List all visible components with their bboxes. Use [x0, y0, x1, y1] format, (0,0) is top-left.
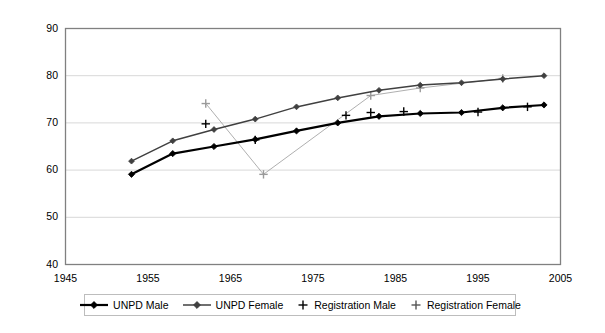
y-axis-tick: 50 [28, 210, 58, 222]
series-unpd-male [128, 102, 547, 178]
series-registration-female [202, 74, 507, 178]
x-axis-tick: 1995 [458, 272, 498, 284]
x-axis-tick: 1945 [46, 272, 86, 284]
legend-item: UNPD Female [182, 299, 284, 311]
x-axis-tick: 1955 [128, 272, 168, 284]
legend-item-label: UNPD Female [216, 299, 284, 311]
legend-item: UNPD Male [79, 299, 168, 311]
legend-marker-diamond-line-gray-icon [182, 299, 212, 311]
y-axis-tick: 80 [28, 69, 58, 81]
legend-item-label: Registration Female [427, 299, 521, 311]
legend-item-label: UNPD Male [113, 299, 168, 311]
y-axis-tick: 70 [28, 116, 58, 128]
y-axis-tick: 60 [28, 163, 58, 175]
x-axis-tick: 2005 [541, 272, 581, 284]
legend-item: Registration Male [296, 299, 396, 311]
x-axis-tick: 1975 [293, 272, 333, 284]
x-axis-tick: 1985 [376, 272, 416, 284]
x-axis-tick: 1965 [211, 272, 251, 284]
legend-marker-diamond-line-black-icon [79, 299, 109, 311]
y-axis-tick: 40 [28, 258, 58, 270]
y-axis-tick: 90 [28, 22, 58, 34]
chart-legend: UNPD MaleUNPD FemaleRegistration MaleReg… [84, 294, 516, 316]
legend-marker-plus-black-icon [296, 299, 310, 311]
chart-container: 908070605040 194519551965197519851995200… [0, 0, 605, 333]
legend-item: Registration Female [409, 299, 521, 311]
plot-frame [66, 29, 561, 265]
legend-marker-plus-gray-icon [409, 299, 423, 311]
legend-item-label: Registration Male [314, 299, 396, 311]
gridlines [66, 76, 561, 218]
